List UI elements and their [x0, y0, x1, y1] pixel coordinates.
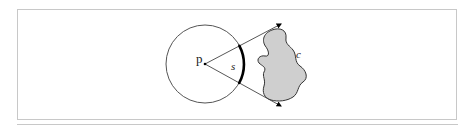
label-c: c [296, 48, 301, 60]
point-p-dot [204, 63, 207, 66]
arc-s [239, 46, 244, 83]
label-p: p [196, 51, 203, 66]
solid-angle-diagram: p s c [0, 0, 474, 127]
region-c-blob [258, 29, 306, 101]
label-s: s [231, 60, 235, 72]
